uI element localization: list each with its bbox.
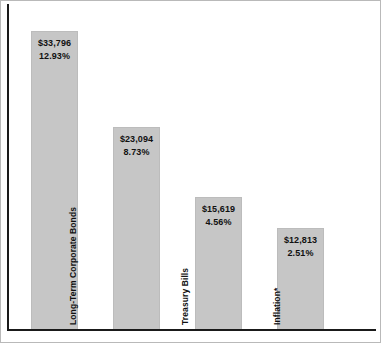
bar-group-1: $23,094 8.73% Long-Term Corporate Bonds: [113, 127, 160, 331]
bar-label-group-2: $15,619 4.56%: [195, 203, 242, 228]
bar-percent-label-0: 12.93%: [31, 50, 78, 63]
y-axis-line: [7, 4, 9, 331]
bar-label-group-3: $12,813 2.51%: [277, 234, 324, 259]
bar-value-label-0: $33,796: [31, 37, 78, 50]
bar-label-group-1: $23,094 8.73%: [113, 133, 160, 158]
bar-value-label-1: $23,094: [113, 133, 160, 146]
bar-chart-figure: $33,796 12.93% Large-Company Common Stoc…: [0, 0, 383, 345]
bar-value-label-2: $15,619: [195, 203, 242, 216]
bar-label-group-0: $33,796 12.93%: [31, 37, 78, 62]
x-axis-line: [7, 329, 376, 331]
bar-value-label-3: $12,813: [277, 234, 324, 247]
bar-percent-label-1: 8.73%: [113, 146, 160, 159]
bar-group-3: $12,813 2.51% Inflation*: [277, 228, 324, 331]
category-label-treasury-bills: Treasury Bills: [180, 268, 190, 325]
bar-percent-label-3: 2.51%: [277, 247, 324, 260]
bar-large-company-common-stock[interactable]: [31, 31, 78, 331]
bar-percent-label-2: 4.56%: [195, 216, 242, 229]
plot-area: $33,796 12.93% Large-Company Common Stoc…: [0, 0, 383, 345]
bar-group-2: $15,619 4.56% Treasury Bills: [195, 197, 242, 331]
bar-group-0: $33,796 12.93% Large-Company Common Stoc…: [31, 31, 78, 331]
